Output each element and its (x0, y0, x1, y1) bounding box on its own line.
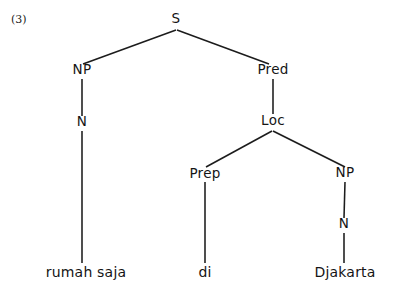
tree-branch-s-pred (177, 30, 269, 64)
tree-node-s: S (172, 10, 181, 26)
tree-node-np2: NP (336, 164, 355, 180)
tree-node-n2: N (339, 215, 349, 231)
tree-node-np1: NP (73, 61, 92, 77)
tree-branch-s-np1 (83, 30, 176, 64)
tree-branch-loc-prep (206, 131, 272, 167)
tree-leaf-group: rumah sajadiDjakarta (46, 264, 376, 280)
syntax-tree-figure: (3) SNPPredNLocPrepNPN rumah sajadiDjaka… (0, 0, 393, 296)
tree-node-n1: N (77, 113, 87, 129)
tree-node-loc: Loc (261, 112, 285, 128)
tree-leaf-leaf3: Djakarta (314, 264, 375, 280)
tree-canvas: SNPPredNLocPrepNPN rumah sajadiDjakarta (0, 0, 393, 296)
tree-node-prep: Prep (189, 165, 220, 181)
tree-edge-group (82, 30, 345, 263)
tree-leaf-leaf1: rumah saja (46, 264, 127, 280)
tree-node-pred: Pred (257, 61, 288, 77)
tree-branch-np2-n2 (344, 182, 345, 218)
tree-branch-loc-np2 (273, 131, 345, 167)
tree-leaf-leaf2: di (198, 264, 211, 280)
